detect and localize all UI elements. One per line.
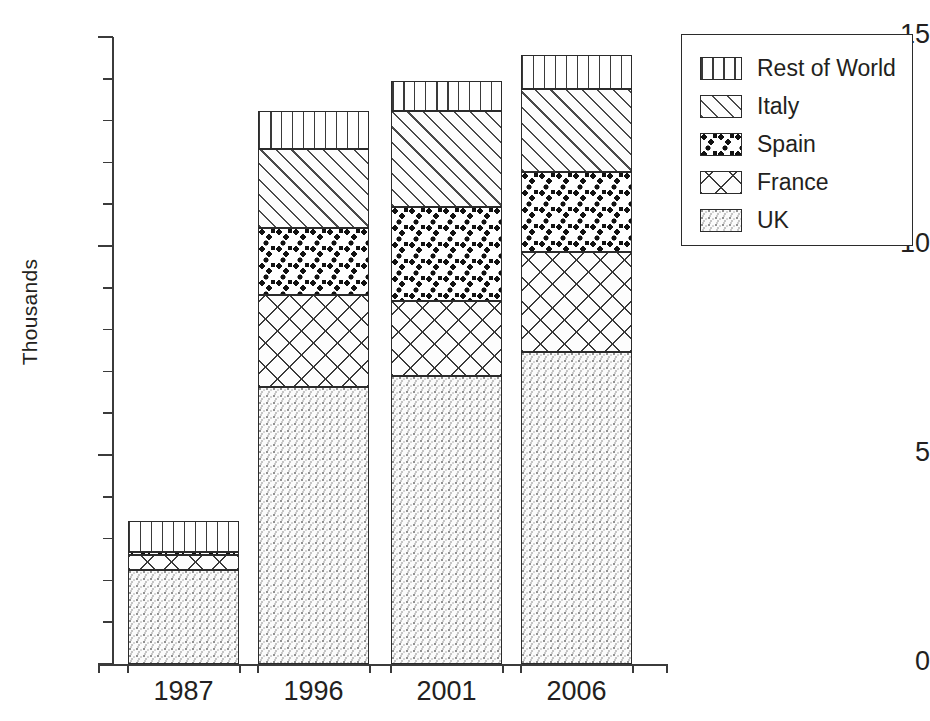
bar-2001[interactable] (391, 81, 502, 664)
legend-swatch-rest-of-world-icon (700, 57, 742, 80)
bar-segment-rest-of-world-1987[interactable] (128, 521, 239, 552)
bar-segment-italy-2006[interactable] (521, 89, 632, 173)
y-axis-minor-tick (103, 162, 113, 164)
x-axis-tick-label-1996: 1996 (258, 676, 369, 707)
x-axis-line (98, 664, 668, 666)
y-axis-minor-tick (103, 496, 113, 498)
bar-segment-uk-2006[interactable] (521, 352, 632, 664)
legend-label: UK (757, 209, 789, 232)
x-axis-end-tick (98, 664, 100, 673)
x-axis-tick (520, 664, 522, 673)
bar-segment-france-1987[interactable] (128, 555, 239, 570)
legend: Rest of WorldItalySpainFranceUK (681, 34, 913, 246)
bar-1996[interactable] (258, 111, 369, 664)
x-axis-tick-label-2001: 2001 (391, 676, 502, 707)
legend-swatch-italy-icon (700, 95, 742, 118)
legend-label: Rest of World (757, 57, 896, 80)
bar-1987[interactable] (128, 521, 239, 664)
legend-label: France (757, 171, 829, 194)
x-axis-tick (127, 664, 129, 673)
x-axis-tick-label-1987: 1987 (128, 676, 239, 707)
bar-segment-rest-of-world-1996[interactable] (258, 111, 369, 149)
legend-swatch-uk-icon (700, 209, 742, 232)
x-axis-tick (239, 664, 241, 673)
bar-segment-france-1996[interactable] (258, 295, 369, 387)
legend-item-rest-of-world[interactable]: Rest of World (700, 49, 912, 87)
x-axis-tick (502, 664, 504, 673)
bar-segment-spain-2001[interactable] (391, 207, 502, 301)
y-axis-minor-tick (103, 329, 113, 331)
legend-swatch-france-icon (700, 171, 742, 194)
legend-rows: Rest of WorldItalySpainFranceUK (700, 49, 912, 239)
y-axis-minor-tick (103, 120, 113, 122)
legend-item-italy[interactable]: Italy (700, 87, 912, 125)
y-axis-minor-tick (103, 538, 113, 540)
legend-item-uk[interactable]: UK (700, 201, 912, 239)
y-axis-minor-tick (103, 412, 113, 414)
legend-swatch-spain-icon (700, 133, 742, 156)
y-axis-minor-tick (103, 580, 113, 582)
bar-segment-italy-2001[interactable] (391, 111, 502, 207)
y-axis-title: Thousands (18, 222, 42, 402)
y-axis-minor-tick (103, 78, 113, 80)
legend-item-france[interactable]: France (700, 163, 912, 201)
bar-segment-uk-1987[interactable] (128, 570, 239, 664)
stacked-bar-chart: Thousands 151050 1987199620012006 Rest o… (0, 0, 930, 721)
y-axis-minor-tick (103, 287, 113, 289)
y-axis-major-tick (98, 663, 113, 665)
bar-segment-rest-of-world-2001[interactable] (391, 81, 502, 110)
bar-segment-spain-2006[interactable] (521, 172, 632, 251)
x-axis-tick-label-2006: 2006 (521, 676, 632, 707)
bar-segment-uk-1996[interactable] (258, 387, 369, 664)
bar-segment-france-2006[interactable] (521, 252, 632, 352)
y-axis-minor-tick (103, 621, 113, 623)
legend-label: Spain (757, 133, 816, 156)
y-axis-tick-label: 0 (838, 648, 930, 675)
legend-item-spain[interactable]: Spain (700, 125, 912, 163)
y-axis-major-tick (98, 36, 113, 38)
x-axis-tick (369, 664, 371, 673)
y-axis-major-tick (98, 454, 113, 456)
y-axis-tick-label: 5 (838, 439, 930, 466)
x-axis-end-tick (666, 664, 668, 673)
bar-segment-italy-1996[interactable] (258, 149, 369, 228)
y-axis-major-tick (98, 245, 113, 247)
y-axis-line (112, 37, 114, 665)
bar-2006[interactable] (521, 55, 632, 664)
bar-segment-spain-1987[interactable] (128, 552, 239, 555)
bar-segment-uk-2001[interactable] (391, 376, 502, 664)
y-axis-minor-tick (103, 371, 113, 373)
x-axis-tick (632, 664, 634, 673)
y-axis-minor-tick (103, 203, 113, 205)
x-axis-tick (257, 664, 259, 673)
x-axis-tick (390, 664, 392, 673)
bar-segment-spain-1996[interactable] (258, 228, 369, 295)
bar-segment-france-2001[interactable] (391, 301, 502, 376)
legend-label: Italy (757, 95, 799, 118)
bar-segment-rest-of-world-2006[interactable] (521, 55, 632, 88)
